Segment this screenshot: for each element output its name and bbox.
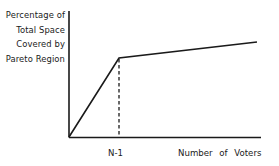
x-axis-label: Number of Voters [178,148,261,158]
coverage-curve [69,42,257,137]
chart-plot [0,0,279,166]
x-tick-n-minus-1: N-1 [108,148,123,158]
